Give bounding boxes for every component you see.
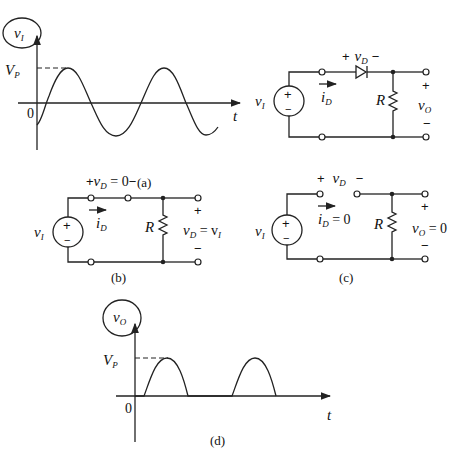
resistor-icon [159,198,167,262]
caption-a: (a) [137,175,151,190]
y-axis-label: vO [113,309,127,327]
half-wave-rectifier-figure: vI VP 0 t (a) + − vI +vD− iD [0,0,456,458]
output-terminal [423,134,429,140]
resistor-label: R [373,216,383,232]
output-terminal [422,191,428,197]
diode-on-equivalent-circuit: + − vI +vD = 0− iD R + vD = vI − (b) [34,173,222,285]
output-minus: − [421,238,429,253]
origin-label: 0 [27,106,34,121]
output-minus: − [194,241,202,256]
output-terminal [195,195,201,201]
output-plus: + [422,78,430,93]
diode-off-equivalent-circuit: + − vI +vD− iD = 0 R + vO = 0 − (c) [255,170,447,285]
source-label: vI [255,223,266,241]
source-minus: − [285,103,291,115]
caption-c: (c) [339,270,353,285]
caption-b: (b) [111,270,126,285]
rectifier-circuit: + − vI +vD− iD R + vO − [255,48,432,140]
output-label: vO = 0 [412,220,447,238]
output-label: vO [418,97,432,115]
open-circuit-terminal [354,191,360,197]
terminal [319,134,325,140]
terminal [319,69,325,75]
resistor-label: R [144,219,154,235]
source-minus: − [64,234,70,246]
current-label: iD [96,215,107,233]
origin-label: 0 [125,401,132,416]
x-axis-label: t [233,108,238,124]
half-wave-rectified-signal [135,358,276,396]
diode-voltage-label: +vD− [342,48,379,66]
output-label: vD = vI [183,222,222,240]
output-waveform-graph: vO VP 0 t (d) [103,300,332,448]
resistor-label: R [375,92,385,108]
resistor-icon [389,72,397,137]
caption-d: (d) [210,433,225,448]
peak-label: VP [103,352,118,370]
peak-label: VP [5,62,20,80]
diode-voltage-label: +vD = 0− [86,173,136,191]
output-plus: + [421,199,429,214]
output-terminal [423,69,429,75]
source-label: vI [34,224,45,242]
current-label: iD [321,89,332,107]
diode-voltage-label: +vD− [317,170,363,188]
output-plus: + [194,203,202,218]
source-label: vI [255,93,266,111]
diode-icon [356,66,367,78]
source-plus: + [63,218,71,233]
source-minus: − [283,232,289,244]
sine-wave [37,68,218,136]
source-plus: + [284,87,292,102]
output-minus: − [423,116,431,131]
input-waveform-graph: vI VP 0 t (a) [3,18,240,190]
output-terminal [422,256,428,262]
source-plus: + [282,216,290,231]
y-axis-label: vI [14,25,25,43]
current-label: iD = 0 [318,211,351,229]
x-axis-label: t [327,407,332,423]
resistor-icon [388,194,396,259]
output-terminal [195,259,201,265]
